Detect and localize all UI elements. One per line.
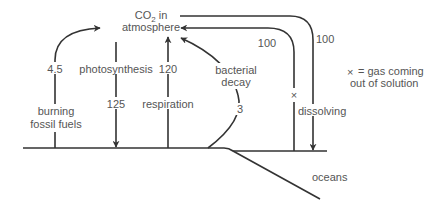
bacterial-decay-value: 3 [237, 103, 243, 115]
dissolving-label: dissolving [298, 105, 346, 117]
respiration-label: respiration [142, 98, 193, 110]
legend-text-1: = gas coming [358, 65, 424, 77]
carbon-cycle-diagram: CO2 in atmosphere 4.5 burning fossil fue… [0, 0, 441, 209]
ground-line [23, 148, 327, 151]
bacterial-decay-arrow [181, 38, 239, 148]
dissolving-value: 100 [316, 33, 334, 45]
oceans-label: oceans [312, 171, 348, 183]
ocean-slope-line [233, 151, 320, 199]
gas-out-value: 100 [258, 37, 276, 49]
fossil-fuels-label: fossil fuels [30, 118, 82, 130]
atmosphere-label-line2: atmosphere [122, 21, 180, 33]
photosynthesis-label: photosynthesis [79, 63, 153, 75]
bacterial-label: bacterial [215, 64, 257, 76]
respiration-value: 120 [159, 63, 177, 75]
legend: × = gas coming out of solution [347, 65, 424, 89]
legend-text-2: out of solution [350, 77, 419, 89]
burning-value: 4.5 [47, 63, 62, 75]
gas-out-marker: × [291, 89, 297, 101]
burning-label: burning [38, 105, 75, 117]
decay-label: decay [221, 76, 251, 88]
photosynthesis-value: 125 [107, 98, 125, 110]
